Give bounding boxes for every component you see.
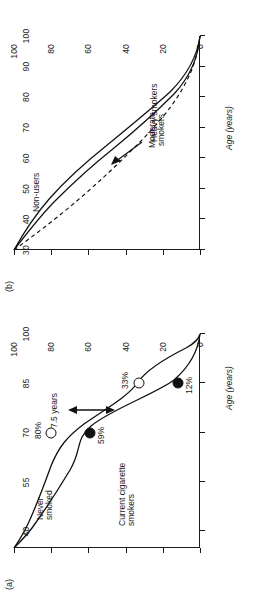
- marker-smokers-12: [172, 378, 183, 389]
- panel-b: (b) 30 40 50 60 70 80 90 10: [0, 0, 255, 298]
- panel-a-xtick: [200, 333, 205, 334]
- panel-b-ytick: [163, 250, 164, 255]
- panel-a-ytick: [88, 548, 89, 553]
- panel-a-ytick: [163, 548, 164, 553]
- label-7-5-years: 7.5 years: [50, 393, 59, 428]
- panel-a-xtick: [200, 481, 205, 482]
- never-smoked-line2: smoked: [45, 490, 54, 520]
- figure-page: (b) 30 40 50 60 70 80 90 10: [0, 0, 255, 595]
- panel-a-xtick: [200, 531, 205, 532]
- marker-smokers-59: [85, 427, 96, 438]
- panel-b-ytick: [88, 250, 89, 255]
- curve-moderate-smokers: [14, 36, 200, 250]
- panel-a-xtick: [200, 432, 205, 433]
- panel-a-never-smoked-label: Never smoked: [36, 490, 54, 520]
- panel-b-xtick: [200, 157, 205, 158]
- panel-b-non-users-label: Non-users: [32, 173, 41, 212]
- panel-a-ytick: [14, 548, 15, 553]
- panel-a-ytick: [200, 548, 201, 553]
- label-12-percent: 12%: [184, 377, 194, 394]
- panel-b-xtick: [200, 127, 205, 128]
- panel-b-xtick: [200, 96, 205, 97]
- panel-b-curves: [14, 36, 200, 250]
- panel-b-xtick: [200, 66, 205, 67]
- gap-double-arrow: [68, 406, 115, 414]
- curve-non-users: [14, 36, 200, 250]
- panel-b-xtick: [200, 218, 205, 219]
- panel-b-xtick: [200, 188, 205, 189]
- panel-a-ytick: [51, 548, 52, 553]
- panel-a-x-axis-title: Age (years): [224, 366, 234, 410]
- panel-b-ytick: [126, 250, 127, 255]
- current-smokers-line2: smokers: [127, 463, 136, 526]
- panel-a-xtick: [200, 382, 205, 383]
- marker-never-smoked-80: [46, 427, 57, 438]
- label-80-percent: 80%: [33, 422, 43, 439]
- panel-b-ytick: [14, 250, 15, 255]
- panel-a: (a) 40 55 70 85 100: [0, 298, 255, 595]
- panel-b-label: (b): [4, 281, 14, 292]
- panel-b-ytick: [51, 250, 52, 255]
- moderate-smokers-arrow: [111, 142, 142, 165]
- panel-b-moderate-smokers-label: Moderate smokers: [148, 112, 166, 148]
- panel-a-ytick: [126, 548, 127, 553]
- label-59-percent: 59%: [96, 427, 106, 444]
- panel-b-ytick: [200, 250, 201, 255]
- panel-a-label: (a): [4, 579, 14, 590]
- panel-b-x-axis-title: Age (years): [224, 106, 234, 150]
- curve-heavy-smokers: [14, 36, 200, 250]
- panel-b-xtick: [200, 35, 205, 36]
- label-33-percent: 33%: [120, 372, 130, 389]
- panel-b-moderate-line2: smokers: [157, 112, 166, 148]
- panel-a-current-smokers-label: Current cigarette smokers: [118, 463, 136, 526]
- marker-never-smoked-33: [133, 378, 144, 389]
- panel-b-plot-area: 30 40 50 60 70 80 90 100 100 80 60 40 2: [14, 36, 200, 250]
